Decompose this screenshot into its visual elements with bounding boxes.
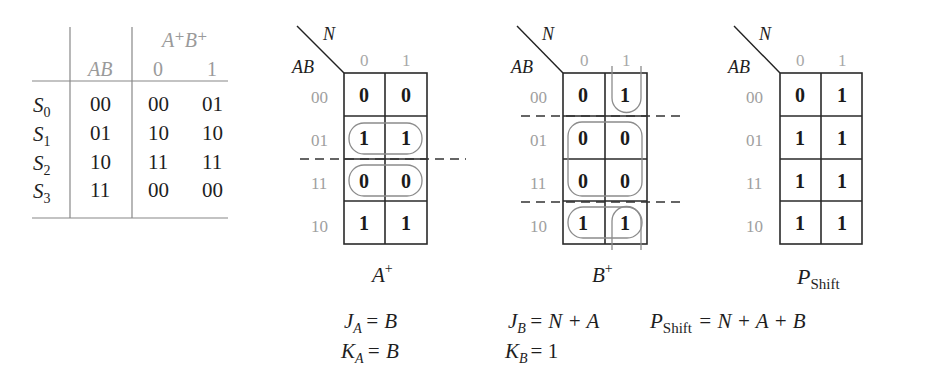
kmap-a-plus: N AB 0 1 00 01 11 10 0 0 1 1 0 0 1 1 A+ [291,24,466,287]
kmap-cell: 1 [795,127,805,149]
col-label: 1 [402,51,411,70]
kmap-cell: 1 [837,212,847,234]
row-label: 11 [746,174,762,193]
table-row: S1 01 10 10 [33,121,223,149]
kmap-cell: 1 [795,212,805,234]
equation-kb: KB= 1 [504,339,558,366]
row-label: 00 [530,88,547,107]
row-label: 10 [746,217,763,236]
svg-text:11: 11 [148,150,168,174]
svg-text:00: 00 [90,92,111,116]
diagram-canvas: A⁺B⁺ AB 0 1 S0 00 00 01 S1 01 10 10 S2 1… [0,0,931,385]
kmap-cell: 1 [578,212,588,234]
svg-text:11: 11 [90,178,110,202]
svg-text:01: 01 [202,92,223,116]
row-label: 11 [530,174,546,193]
kmap-cell: 1 [620,84,630,106]
row-var-label: AB [291,57,314,77]
svg-text:00: 00 [148,92,169,116]
kmap-cell: 1 [795,170,805,192]
svg-text:S0: S0 [33,93,51,120]
kmap-cell: 0 [620,127,630,149]
kmap-cell: 0 [359,84,369,106]
kmap-cell: 0 [401,84,411,106]
kmap-cell: 1 [359,127,369,149]
input-col-0-header: 0 [153,58,163,80]
svg-text:10: 10 [202,121,223,145]
kmap-title: B+ [592,261,613,287]
svg-text:00: 00 [148,178,169,202]
input-col-1-header: 1 [207,58,217,80]
kmap-cell: 1 [401,127,411,149]
row-label: 11 [311,174,327,193]
svg-text:10: 10 [148,121,169,145]
row-label: 01 [311,131,328,150]
equation-pshift: PShift= N + A + B [649,309,806,336]
col-var-label: N [758,24,772,44]
svg-text:S1: S1 [33,122,51,149]
row-label: 10 [311,217,328,236]
kmap-cell: 1 [359,212,369,234]
row-label: 00 [311,88,328,107]
equation-ja: JA= B [344,309,397,336]
kmap-cell: 1 [837,84,847,106]
col-label: 0 [796,51,805,70]
table-row: S2 10 11 11 [33,150,222,178]
kmap-p-shift: N AB 0 1 00 01 11 10 0 1 1 1 1 1 1 1 PSh… [727,24,862,292]
row-label: 01 [746,131,763,150]
kmap-cell: 0 [578,170,588,192]
kmap-cell: 0 [359,170,369,192]
svg-text:S3: S3 [33,179,51,206]
present-state-header: AB [86,58,112,80]
equation-jb: JB= N + A [508,309,600,336]
col-label: 0 [360,51,369,70]
kmap-cell: 0 [620,170,630,192]
table-row: S3 11 00 00 [33,178,223,206]
row-var-label: AB [510,57,533,77]
svg-text:10: 10 [90,150,111,174]
row-label: 01 [530,131,547,150]
col-label: 1 [838,51,847,70]
kmap-cell: 0 [401,170,411,192]
state-table: A⁺B⁺ AB 0 1 S0 00 00 01 S1 01 10 10 S2 1… [32,27,228,218]
svg-text:01: 01 [90,121,111,145]
row-label: 10 [530,217,547,236]
kmap-cell: 1 [620,212,630,234]
table-row: S0 00 00 01 [33,92,223,120]
kmap-cell: 1 [837,127,847,149]
svg-text:11: 11 [202,150,222,174]
kmap-cell: 0 [795,84,805,106]
svg-text:00: 00 [202,178,223,202]
equation-ka: KA= B [340,339,399,366]
kmap-cell: 0 [578,127,588,149]
row-label: 00 [746,88,763,107]
svg-text:S2: S2 [33,151,51,178]
kmap-title: A+ [370,261,393,287]
row-var-label: AB [727,57,750,77]
next-state-header: A⁺B⁺ [160,29,208,51]
equations: JA= B KA= B JB= N + A KB= 1 PShift= N + … [340,309,806,366]
kmap-cell: 1 [837,170,847,192]
kmap-cell: 1 [401,212,411,234]
col-label: 1 [622,51,631,70]
kmap-title: PShift [796,264,840,292]
col-var-label: N [541,24,555,44]
kmap-cell: 0 [578,84,588,106]
kmap-b-plus: N AB 0 1 00 01 11 10 0 1 0 0 0 0 1 1 B+ [510,24,686,287]
col-label: 0 [580,51,589,70]
col-var-label: N [322,24,336,44]
